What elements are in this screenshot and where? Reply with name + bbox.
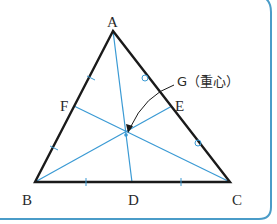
label-E: E [175,98,184,114]
pointer-arrow [130,85,174,128]
label-C: C [232,192,242,208]
label-F: F [60,98,68,114]
label-B: B [22,192,32,208]
label-A: A [107,14,118,30]
centroid-diagram: A B C D E F G（重心） [0,0,277,224]
centroid-point [124,133,128,137]
label-G-centroid: G（重心） [177,74,239,89]
frame-border [0,0,271,219]
label-D: D [128,192,139,208]
